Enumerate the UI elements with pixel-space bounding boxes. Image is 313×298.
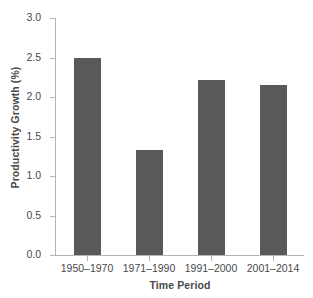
x-tick: [211, 256, 212, 261]
bar: [74, 58, 101, 256]
y-tick-label: 1.0: [11, 169, 41, 181]
x-tick-label: 1950–1970: [56, 262, 118, 274]
y-tick-label: 0.0: [11, 248, 41, 260]
bar: [198, 80, 225, 255]
bar-chart-figure: Productivity Growth (%) 0.00.51.01.52.02…: [0, 0, 313, 298]
plot-area: 0.00.51.01.52.02.53.0 1950–19701971–1990…: [56, 18, 304, 255]
x-axis-title: Time Period: [55, 279, 305, 291]
bar: [136, 150, 163, 255]
y-tick: 3.0: [50, 18, 55, 19]
y-tick: 0.0: [50, 255, 55, 256]
y-tick-label: 2.0: [11, 90, 41, 102]
y-tick-label: 1.5: [11, 130, 41, 142]
x-axis-line: [55, 255, 304, 256]
y-tick: 2.0: [50, 97, 55, 98]
y-tick-label: 0.5: [11, 209, 41, 221]
bar: [260, 85, 287, 255]
y-tick-label: 3.0: [11, 11, 41, 23]
x-tick: [273, 256, 274, 261]
y-tick: 1.5: [50, 137, 55, 138]
y-axis-line: [55, 18, 56, 256]
x-tick-label: 1991–2000: [180, 262, 242, 274]
y-tick: 2.5: [50, 58, 55, 59]
x-tick-label: 1971–1990: [118, 262, 180, 274]
x-tick: [87, 256, 88, 261]
x-tick: [149, 256, 150, 261]
y-tick: 0.5: [50, 216, 55, 217]
y-tick-label: 2.5: [11, 51, 41, 63]
x-tick-label: 2001–2014: [242, 262, 304, 274]
y-tick: 1.0: [50, 176, 55, 177]
